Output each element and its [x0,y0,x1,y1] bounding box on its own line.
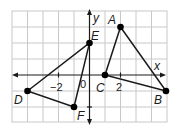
tick-label-neg2: −2 [50,81,63,93]
y-axis-label: y [92,11,100,25]
point-c [102,72,109,79]
point-a [117,24,124,31]
tick-label-0: 0 [80,78,86,90]
point-b [163,88,170,95]
coordinate-plane: A B C D E F y x −2 0 2 [0,0,177,130]
x-axis-right-arrow-icon [160,73,166,78]
x-axis-label: x [153,59,161,73]
label-b: B [154,93,162,107]
y-axis-up-arrow-icon [87,9,92,15]
label-f: F [77,109,85,123]
label-a: A [107,13,116,27]
label-c: C [96,81,105,95]
x-axis-left-arrow-icon [12,73,18,78]
tick-label-2: 2 [116,81,122,93]
point-d [24,88,31,95]
label-d: D [14,93,23,107]
label-e: E [91,29,100,43]
